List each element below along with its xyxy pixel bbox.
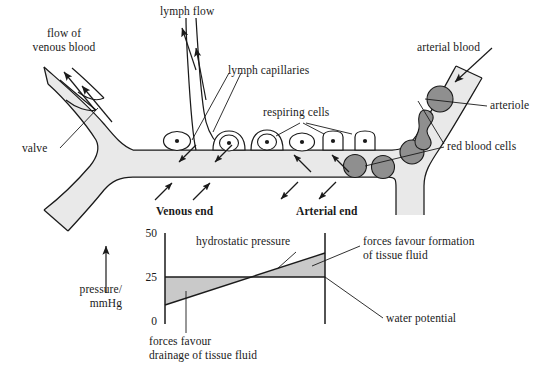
label-lymph-flow: lymph flow: [160, 5, 214, 19]
respiring-cell: [164, 132, 191, 151]
graph-label-arterial-end: Arterial end: [296, 205, 358, 219]
respiring-cell: [323, 131, 343, 150]
tissue-fluid-out-arrow: [281, 182, 298, 199]
figure-root: flow of venous blood valve lymph flow ly…: [0, 0, 551, 374]
arteriole-lower-branch: [388, 177, 396, 215]
label-lymph-capillaries: lymph capillaries: [228, 64, 309, 78]
label-arteriole: arteriole: [490, 99, 529, 113]
leader-water-potential: [325, 277, 383, 318]
label-red-blood-cells: red blood cells: [447, 140, 516, 154]
label-flow-of-venous-blood-line2: venous blood: [14, 41, 114, 55]
tissue-fluid-in-arrow: [155, 183, 172, 200]
tissue-fluid-out-arrow: [319, 182, 336, 199]
label-arterial-blood: arterial blood: [417, 41, 480, 55]
red-blood-cell: [427, 86, 453, 112]
graph-ytick-50: 50: [129, 227, 157, 239]
graph-annotation-forces-formation-line1: forces favour formation: [363, 235, 475, 249]
graph-ytick-0: 0: [129, 315, 157, 327]
graph-ytick-25: 25: [129, 271, 157, 283]
graph-annotation-water-potential: water potential: [386, 312, 456, 326]
graph-ylabel-line1: pressure/: [56, 283, 122, 297]
graph-annotation-forces-drainage-line1: forces favour: [149, 335, 211, 349]
respiring-cell: [290, 133, 315, 151]
label-valve: valve: [22, 142, 47, 156]
label-respiring-cells: respiring cells: [263, 106, 329, 120]
red-blood-cell: [344, 155, 367, 178]
graph-ylabel-line2: mmHg: [56, 297, 122, 311]
leader-lymph-capillaries-b: [213, 73, 241, 132]
graph-annotation-forces-drainage-line2: drainage of tissue fluid: [149, 349, 257, 363]
graph-label-venous-end: Venous end: [156, 205, 213, 219]
graph-annotation-hydrostatic-pressure: hydrostatic pressure: [196, 235, 290, 249]
figure-canvas: [0, 0, 551, 374]
respiring-cell: [355, 131, 375, 150]
graph-annotation-forces-formation-line2: of tissue fluid: [363, 249, 428, 263]
red-blood-cell: [372, 156, 395, 179]
label-flow-of-venous-blood-line1: flow of: [14, 27, 114, 41]
respiring-cell: [251, 130, 283, 150]
tissue-fluid-in-arrow: [193, 183, 210, 200]
